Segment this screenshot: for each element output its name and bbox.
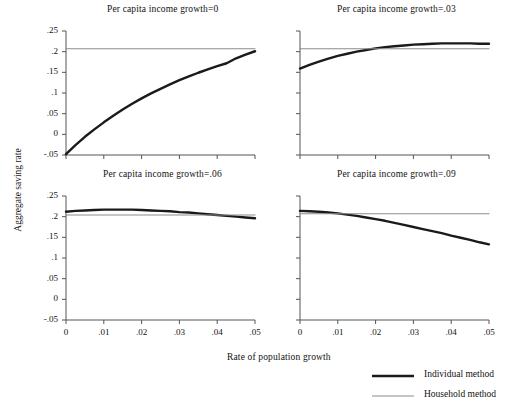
x-axis-label: Rate of population growth [227, 352, 331, 362]
panel-title-1: Per capita income growth=.03 [337, 4, 456, 14]
panel-3 [296, 196, 489, 324]
series-line-individual [66, 51, 255, 154]
x-tick-label: .04 [431, 327, 471, 337]
y-tick-label: .25 [16, 25, 58, 35]
x-tick-label: .03 [393, 327, 433, 337]
x-tick-label: .01 [318, 327, 358, 337]
y-tick-label: .25 [16, 190, 58, 200]
legend-label-household: Household method [424, 389, 496, 399]
y-tick-label: .1 [16, 87, 58, 97]
y-tick-label: .05 [16, 273, 58, 283]
series-line-individual [300, 43, 489, 68]
x-tick-label: .03 [159, 327, 199, 337]
x-tick-label: .02 [356, 327, 396, 337]
panel-title-0: Per capita income growth=0 [107, 4, 218, 14]
y-tick-label: -.05 [16, 149, 58, 159]
y-tick-label: .15 [16, 66, 58, 76]
series-line-individual [66, 210, 255, 219]
panel-0 [62, 31, 255, 159]
panel-1 [296, 31, 489, 159]
x-tick-label: .02 [122, 327, 162, 337]
y-tick-label: .1 [16, 252, 58, 262]
figure-canvas: Aggregate saving rate Rate of population… [0, 0, 529, 413]
y-tick-label: .2 [16, 46, 58, 56]
y-tick-label: 0 [16, 293, 58, 303]
x-tick-label: 0 [46, 327, 86, 337]
series-line-individual [300, 211, 489, 244]
y-tick-label: .2 [16, 211, 58, 221]
y-tick-label: .15 [16, 231, 58, 241]
x-tick-label: 0 [280, 327, 320, 337]
legend-label-individual: Individual method [424, 369, 494, 379]
panel-title-3: Per capita income growth=.09 [337, 169, 456, 179]
y-tick-label: 0 [16, 128, 58, 138]
x-tick-label: .04 [197, 327, 237, 337]
x-tick-label: .01 [84, 327, 124, 337]
x-tick-label: .05 [235, 327, 275, 337]
y-tick-label: .05 [16, 108, 58, 118]
x-tick-label: .05 [469, 327, 509, 337]
panel-title-2: Per capita income growth=.06 [103, 169, 222, 179]
y-tick-label: -.05 [16, 314, 58, 324]
panel-2 [62, 196, 255, 324]
